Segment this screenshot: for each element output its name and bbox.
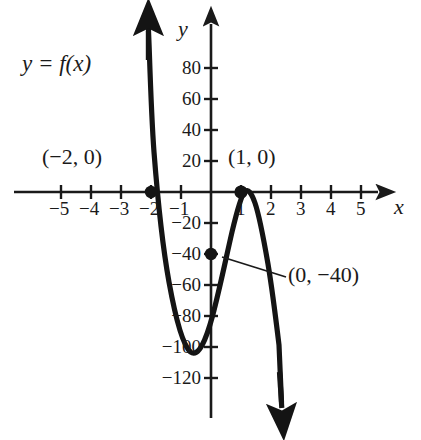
point-root-right xyxy=(234,185,247,198)
xtick-label-minus4: −4 xyxy=(79,199,99,218)
ytick-label-minus40: −40 xyxy=(151,244,201,263)
point-y-intercept xyxy=(205,248,217,260)
ytick-label-minus60: −60 xyxy=(151,275,201,294)
annotation-root-right: (1, 0) xyxy=(228,146,276,168)
xtick-label-1: 1 xyxy=(236,199,246,218)
y-axis-label: y xyxy=(178,18,188,40)
ytick-label-minus120: −120 xyxy=(141,368,201,387)
ytick-label-40: 40 xyxy=(155,120,201,139)
xtick-label-2: 2 xyxy=(266,199,276,218)
xtick-label-minus5: −5 xyxy=(49,199,69,218)
graph-figure: −5 −4 −3 −2 −1 1 2 3 4 5 80 60 40 20 −20… xyxy=(0,0,421,440)
ytick-label-80: 80 xyxy=(155,58,201,77)
ytick-label-60: 60 xyxy=(155,89,201,108)
xtick-label-4: 4 xyxy=(326,199,336,218)
axis-y xyxy=(204,24,218,418)
x-axis-label: x xyxy=(394,196,404,218)
curve-arrow-down xyxy=(280,372,282,408)
annotation-y-intercept: (0, −40) xyxy=(288,264,359,286)
axis-x xyxy=(14,185,378,199)
xtick-label-5: 5 xyxy=(356,199,366,218)
annotation-root-left: (−2, 0) xyxy=(42,146,102,168)
point-root-left xyxy=(145,186,157,198)
ytick-label-20: 20 xyxy=(155,151,201,170)
ytick-label-minus80: −80 xyxy=(151,306,201,325)
ytick-label-minus100: −100 xyxy=(141,337,201,356)
leader-line-y-intercept xyxy=(222,257,286,277)
function-equation-label: y = f(x) xyxy=(22,52,91,75)
ytick-label-minus20: −20 xyxy=(151,213,201,232)
xtick-label-minus3: −3 xyxy=(109,199,129,218)
xtick-label-3: 3 xyxy=(296,199,306,218)
